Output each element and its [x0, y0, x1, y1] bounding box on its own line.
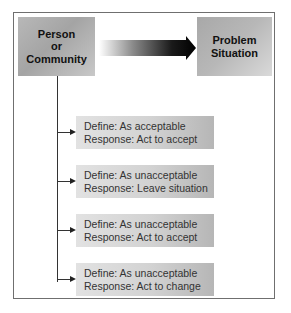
define-text: Define: As unacceptable: [84, 169, 214, 182]
option-box-4: Define: As unacceptable Response: Act to…: [76, 263, 214, 296]
response-text: Response: Act to accept: [84, 231, 214, 244]
define-text: Define: As unacceptable: [84, 218, 214, 231]
define-text: Define: As unacceptable: [84, 267, 214, 280]
branch-line: [57, 230, 71, 231]
option-box-2: Define: As unacceptable Response: Leave …: [76, 165, 214, 198]
person-or-community-box: Person or Community: [18, 17, 95, 76]
branch-line: [57, 181, 71, 182]
problem-situation-box: Problem Situation: [197, 17, 272, 76]
branch-line: [57, 279, 71, 280]
define-text: Define: As acceptable: [84, 120, 214, 133]
response-text: Response: Act to accept: [84, 133, 214, 146]
option-box-1: Define: As acceptable Response: Act to a…: [76, 116, 214, 149]
gradient-arrow-icon: [99, 36, 196, 60]
option-box-3: Define: As unacceptable Response: Act to…: [76, 214, 214, 247]
response-text: Response: Act to change: [84, 280, 214, 293]
branch-line: [57, 132, 71, 133]
branch-connector-line: [57, 76, 58, 282]
response-text: Response: Leave situation: [84, 182, 214, 195]
